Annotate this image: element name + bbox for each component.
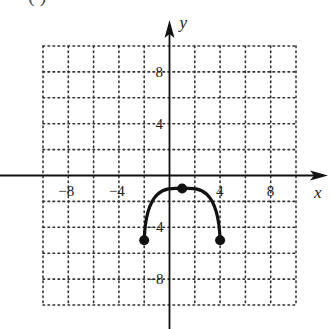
point-marker [215,235,225,245]
y-axis-label: y [178,13,188,32]
graph: ( ) −8−44884−4−8 x y [0,0,332,329]
y-tick-label: 8 [156,64,164,80]
x-tick-label: −8 [58,183,74,199]
y-tick-label: −4 [148,219,164,235]
point-marker [177,183,187,193]
problem-label-fragment: ( ) [28,0,46,7]
x-tick-label: 4 [216,183,224,199]
arc-curve [139,183,225,245]
x-tick-label: −4 [109,183,125,199]
point-marker [139,235,149,245]
axes [0,20,328,329]
x-tick-label: 8 [267,183,275,199]
y-tick-label: 4 [156,116,164,132]
y-tick-label: −8 [148,271,164,287]
x-axis-label: x [313,183,322,202]
